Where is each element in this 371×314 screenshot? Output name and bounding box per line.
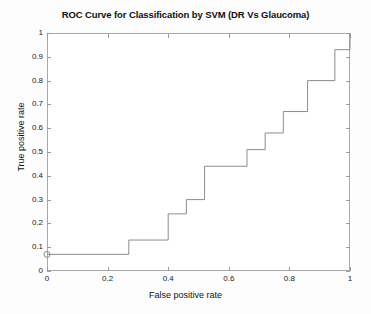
x-axis-title: False positive rate bbox=[0, 290, 371, 300]
x-tick-label: 0.4 bbox=[153, 274, 183, 283]
y-axis-title: True positive rate bbox=[16, 67, 26, 207]
roc-curve-line bbox=[47, 33, 350, 254]
plot-area bbox=[47, 33, 350, 271]
x-tick-label: 0.2 bbox=[93, 274, 123, 283]
y-tick-label-text: 0.2 bbox=[1, 218, 43, 227]
x-tick-mark bbox=[350, 267, 351, 271]
roc-curve-svg bbox=[47, 33, 350, 271]
y-tick-label-text: 0.1 bbox=[1, 242, 43, 251]
roc-chart-figure: ROC Curve for Classification by SVM (DR … bbox=[0, 0, 371, 314]
y-tick-mark bbox=[346, 271, 350, 272]
x-tick-label: 0.8 bbox=[274, 274, 304, 283]
y-tick-label-text: 0.9 bbox=[1, 52, 43, 61]
page-title: ROC Curve for Classification by SVM (DR … bbox=[0, 9, 371, 20]
y-tick-label-text: 1 bbox=[1, 28, 43, 37]
x-tick-label: 0 bbox=[32, 274, 62, 283]
x-tick-label: 0.6 bbox=[214, 274, 244, 283]
y-tick-mark bbox=[47, 271, 51, 272]
x-tick-label: 1 bbox=[335, 274, 365, 283]
